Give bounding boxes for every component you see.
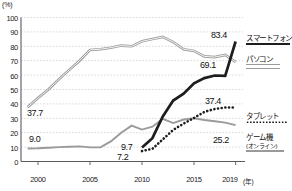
- value-label-pc-start: 37.7: [27, 108, 43, 118]
- value-label-tablet-end: 37.4: [205, 96, 221, 106]
- value-label-pc-end: 69.1: [200, 60, 216, 70]
- value-label-tablet-start: 7.2: [117, 152, 128, 162]
- legend-swatch-console: [246, 150, 284, 152]
- value-label-smartphone-end: 83.4: [211, 30, 227, 40]
- legend-label-smartphone: スマートフォン: [246, 32, 292, 43]
- legend-swatch-pc: [246, 64, 280, 69]
- legend-sublabel-console: (オンライン): [246, 141, 277, 150]
- legend-swatch-smartphone: [246, 43, 290, 45]
- value-label-console-start: 9.0: [29, 134, 40, 144]
- plot-area: [0, 0, 292, 191]
- value-label-console-end: 25.2: [213, 135, 229, 145]
- legend-swatch-tablet: [246, 121, 288, 124]
- legend-label-pc: パソコン: [246, 53, 272, 64]
- series-smartphone: [142, 42, 236, 148]
- chart-figure: (%) 100 90 80 70 60 50 40 30 20 10 0 200…: [0, 0, 292, 191]
- value-label-console-mid: 9.7: [121, 142, 132, 152]
- legend-label-tablet: タブレット: [246, 110, 279, 121]
